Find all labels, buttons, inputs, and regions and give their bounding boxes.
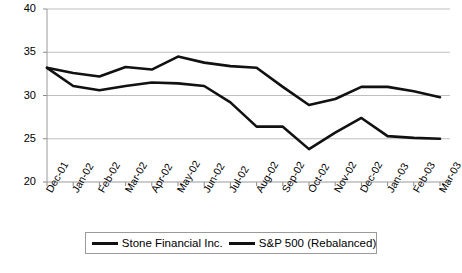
legend-line-icon-sp500 — [229, 242, 255, 245]
chart-legend: Stone Financial Inc. S&P 500 (Rebalanced… — [85, 232, 377, 254]
legend-line-icon-stone-financial — [92, 242, 118, 245]
line-chart: 2025303540 Dec-01Jan-02Feb-02Mar-02Apr-0… — [0, 0, 462, 273]
y-tick-label: 35 — [12, 46, 36, 57]
y-tick-label: 20 — [12, 176, 36, 187]
legend-entry-stone-financial: Stone Financial Inc. — [86, 237, 223, 249]
series-line-sp500 — [47, 68, 440, 149]
series-paths — [47, 57, 440, 150]
y-tick-label: 25 — [12, 133, 36, 144]
y-tick-label: 30 — [12, 90, 36, 101]
y-tick-marks — [43, 9, 47, 182]
legend-entry-sp500: S&P 500 (Rebalanced) — [223, 237, 376, 249]
series-line-stone-financial — [47, 57, 440, 105]
legend-label-sp500: S&P 500 (Rebalanced) — [259, 237, 376, 249]
legend-label-stone-financial: Stone Financial Inc. — [122, 237, 223, 249]
plot-area: 2025303540 Dec-01Jan-02Feb-02Mar-02Apr-0… — [0, 0, 462, 225]
y-tick-label: 40 — [12, 3, 36, 14]
